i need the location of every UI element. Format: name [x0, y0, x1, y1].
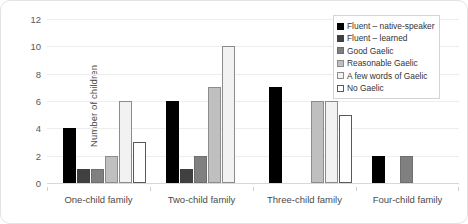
y-tick-label: 12 [30, 14, 41, 25]
legend-label: Fluent – native-speaker [347, 22, 435, 30]
y-tick-label: 10 [30, 41, 41, 52]
bar-slot [222, 19, 235, 183]
bar-slot [105, 19, 118, 183]
legend-label: No Gaelic [347, 84, 384, 92]
bar-slot [442, 19, 455, 183]
legend-item[interactable]: Fluent – learned [337, 32, 435, 44]
bar-slot [297, 19, 310, 183]
legend-swatch-icon [337, 60, 344, 67]
legend-item[interactable]: Fluent – native-speaker [337, 20, 435, 32]
bar [222, 46, 235, 183]
bar [133, 142, 146, 183]
legend-swatch-icon [337, 35, 344, 42]
bar-slot [283, 19, 296, 183]
bar-slot [236, 19, 249, 183]
legend-label: A few words of Gaelic [347, 72, 428, 80]
bar-group [150, 19, 253, 183]
bar [372, 156, 385, 183]
y-tick-label: 6 [36, 96, 41, 107]
bar-slot [133, 19, 146, 183]
bar [77, 169, 90, 183]
bar [180, 169, 193, 183]
legend-label: Fluent – learned [347, 34, 408, 42]
bar [63, 128, 76, 183]
legend-label: Good Gaelic [347, 47, 394, 55]
y-tick-label: 2 [36, 150, 41, 161]
bar-slot [194, 19, 207, 183]
bar-slot [119, 19, 132, 183]
bar-slot [311, 19, 324, 183]
bar [400, 156, 413, 183]
chart-legend: Fluent – native-speakerFluent – learnedG… [333, 15, 440, 99]
bar [91, 169, 104, 183]
x-tick-mark [47, 187, 48, 191]
x-tick-label: One-child family [47, 187, 150, 205]
bar-slot [269, 19, 282, 183]
x-tick-mark [253, 187, 254, 191]
y-tick-label: 0 [36, 178, 41, 189]
legend-item[interactable]: No Gaelic [337, 82, 435, 94]
x-tick-mark [356, 187, 357, 191]
legend-label: Reasonable Gaelic [347, 59, 418, 67]
legend-swatch-icon [337, 47, 344, 54]
bar-chart-figure: Number of children 024681012 One-child f… [0, 0, 468, 224]
bar-slot [180, 19, 193, 183]
x-axis-labels: One-child familyTwo-child familyThree-ch… [47, 187, 459, 205]
x-tick-mark [150, 187, 151, 191]
bar [269, 87, 282, 183]
x-tick-mark [458, 187, 459, 191]
x-tick-label: Four-child family [356, 187, 459, 205]
legend-swatch-icon [337, 23, 344, 30]
bar-slot [63, 19, 76, 183]
legend-item[interactable]: A few words of Gaelic [337, 70, 435, 82]
bar-slot [208, 19, 221, 183]
y-tick-label: 4 [36, 123, 41, 134]
bar [105, 156, 118, 183]
bar [325, 101, 338, 183]
bar-slot [166, 19, 179, 183]
bar [194, 156, 207, 183]
x-tick-label: Three-child family [253, 187, 356, 205]
bar-group [47, 19, 150, 183]
gridline-0: 0 [47, 183, 459, 184]
bar-slot [77, 19, 90, 183]
x-tick-label: Two-child family [150, 187, 253, 205]
bar [339, 115, 352, 183]
legend-swatch-icon [337, 85, 344, 92]
bar [166, 101, 179, 183]
y-tick-label: 8 [36, 68, 41, 79]
legend-swatch-icon [337, 72, 344, 79]
legend-item[interactable]: Reasonable Gaelic [337, 57, 435, 69]
bar-slot [91, 19, 104, 183]
bar [208, 87, 221, 183]
legend-item[interactable]: Good Gaelic [337, 45, 435, 57]
bar [119, 101, 132, 183]
bar [311, 101, 324, 183]
